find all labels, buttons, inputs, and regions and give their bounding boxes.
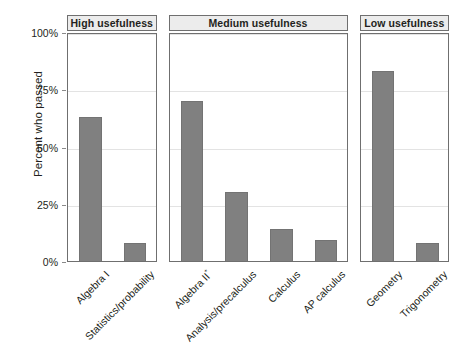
- bar: [181, 101, 203, 261]
- y-tick-mark: [62, 262, 66, 263]
- plot-area: [169, 33, 348, 262]
- gridline: [68, 91, 156, 92]
- bar: [225, 192, 247, 261]
- plot-area: [67, 33, 157, 262]
- y-tick-mark: [62, 148, 66, 149]
- bar: [315, 240, 337, 261]
- y-tick-mark: [62, 90, 66, 91]
- panel-header: Low usefulness: [360, 15, 450, 31]
- y-tick-mark: [62, 205, 66, 206]
- y-tick-label: 0%: [12, 256, 58, 268]
- bar: [124, 243, 146, 261]
- plot-area: [360, 33, 450, 262]
- y-tick-label: 100%: [12, 27, 58, 39]
- bar: [270, 229, 292, 261]
- y-tick-label: 75%: [12, 84, 58, 96]
- gridline: [170, 34, 347, 35]
- panel-header: High usefulness: [67, 15, 157, 31]
- bar-chart: Percent who passed 0%25%50%75%100% High …: [0, 0, 452, 347]
- gridline: [361, 34, 449, 35]
- gridline: [170, 91, 347, 92]
- panel-header: Medium usefulness: [169, 15, 348, 31]
- bar: [79, 117, 101, 261]
- y-tick-label: 50%: [12, 142, 58, 154]
- gridline: [68, 34, 156, 35]
- bar: [372, 71, 394, 261]
- y-tick-label: 25%: [12, 199, 58, 211]
- bar: [416, 243, 438, 261]
- y-tick-mark: [62, 33, 66, 34]
